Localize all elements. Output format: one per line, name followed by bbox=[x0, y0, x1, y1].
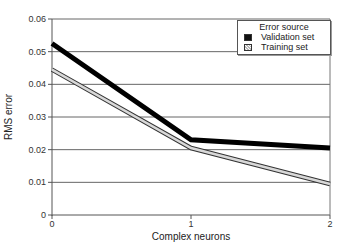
x-tick-label: 1 bbox=[188, 219, 193, 229]
x-tick-label: 2 bbox=[327, 219, 332, 229]
y-tick-label: 0.01 bbox=[28, 177, 46, 187]
training-set-line bbox=[52, 70, 330, 184]
legend-title: Error source bbox=[238, 22, 330, 32]
legend-item-training: Training set bbox=[244, 42, 330, 52]
training-swatch-icon bbox=[244, 44, 252, 51]
y-axis-title: RMS error bbox=[3, 93, 14, 140]
legend-label-validation: Validation set bbox=[261, 32, 314, 42]
y-axis-ticks: 00.010.020.030.040.050.06 bbox=[28, 14, 52, 220]
y-tick-label: 0.06 bbox=[28, 14, 46, 24]
series-layer bbox=[52, 44, 330, 184]
y-tick-label: 0.02 bbox=[28, 145, 46, 155]
x-axis-title: Complex neurons bbox=[152, 231, 230, 242]
x-axis-ticks: 012 bbox=[49, 215, 332, 229]
training-set-line-outline bbox=[52, 70, 330, 184]
y-tick-label: 0 bbox=[41, 210, 46, 220]
legend-item-validation: Validation set bbox=[244, 32, 330, 42]
x-tick-label: 0 bbox=[49, 219, 54, 229]
legend: Error source Validation set Training set bbox=[237, 20, 331, 55]
y-tick-label: 0.05 bbox=[28, 47, 46, 57]
validation-set-line bbox=[52, 44, 330, 149]
y-tick-label: 0.04 bbox=[28, 79, 46, 89]
validation-swatch-icon bbox=[244, 34, 252, 41]
legend-label-training: Training set bbox=[261, 42, 308, 52]
y-tick-label: 0.03 bbox=[28, 112, 46, 122]
